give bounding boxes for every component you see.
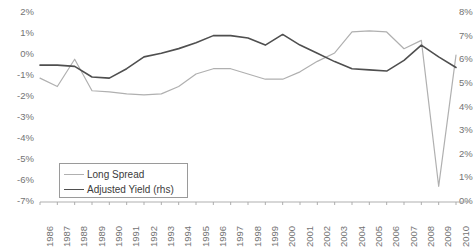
legend-swatch-long-spread [64,174,84,175]
series-line-adjusted-yield-rhs [40,34,456,78]
legend-item: Long Spread [64,167,183,182]
plot-area [0,0,473,249]
chart-container: 2%1%0%-1%-2%-3%-4%-5%-6%-7% 8%7%6%5%4%3%… [0,0,473,249]
legend-label-adjusted-yield: Adjusted Yield (rhs) [87,185,174,195]
legend-label-long-spread: Long Spread [87,170,144,180]
legend-item: Adjusted Yield (rhs) [64,182,183,197]
chart-legend: Long Spread Adjusted Yield (rhs) [59,163,188,198]
legend-swatch-adjusted-yield [64,189,84,190]
